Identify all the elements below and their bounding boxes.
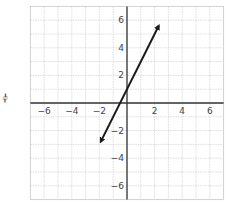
x-tick-label: −4 <box>65 106 79 116</box>
y-tick-label: 2 <box>118 70 124 80</box>
x-tick-label: −2 <box>93 106 106 116</box>
y-tick-label: 4 <box>118 43 124 53</box>
axes <box>30 6 223 199</box>
x-tick-label: 6 <box>207 106 213 116</box>
x-tick-label: 4 <box>179 106 185 116</box>
y-tick-label: −2 <box>111 126 124 136</box>
y-tick-label: −6 <box>111 181 125 191</box>
coordinate-plane: −6−4−2246642−2−4−6 <box>0 0 238 206</box>
plotted-line <box>101 26 159 142</box>
y-tick-label: −4 <box>111 153 125 163</box>
y-tick-label: 6 <box>118 15 124 25</box>
x-tick-label: −6 <box>38 106 52 116</box>
line-y-2x-plus-1 <box>101 26 159 142</box>
x-tick-label: 2 <box>152 106 158 116</box>
